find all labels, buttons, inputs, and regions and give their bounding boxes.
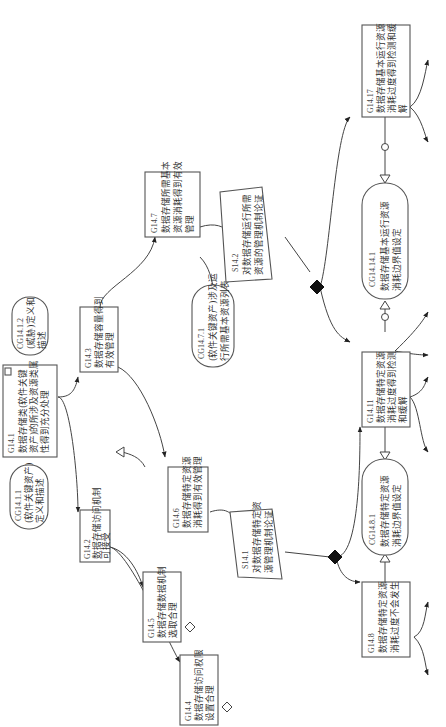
- context-cg14-1-2-node[interactable]: CG14.1.2 (威胁)定义和 描述: [12, 297, 48, 355]
- multiplicity-diamond-icon: [310, 280, 324, 294]
- goal-g14-17[interactable]: G14.17 数据存储基本运行资源 消耗过度得到检测和缓 解: [362, 23, 410, 117]
- goal-id: G14.5: [147, 618, 156, 638]
- strategy-text-line: 资源的管理机制论证: [253, 194, 264, 275]
- goal-id: G14.8: [367, 633, 376, 653]
- goal-id: G14.1: [7, 433, 16, 453]
- context-cg14-7-1[interactable]: CG14.7.1 (软件关键资产)涉及运 行所需基本资源列表: [192, 273, 234, 367]
- context-text-line: 数据存储基本运行资源: [379, 201, 390, 291]
- goal-g14-1[interactable]: G14.1 数据存储类(软件关键 资产)的所涉及资源类属 性得到充分处理: [3, 360, 57, 457]
- goal-g14-4[interactable]: G14.4 数据存储访问权限 设置合理: [180, 649, 218, 725]
- goal-id: G14.6: [172, 508, 181, 528]
- goal-text-line: 管理: [184, 215, 195, 233]
- goal-text-line: 性得到充分处理: [39, 390, 50, 453]
- multiplicity-diamond-icon: [328, 550, 342, 564]
- goal-text-line: 数据存储特定资源: [181, 456, 192, 528]
- undeveloped-icon: [185, 622, 195, 632]
- strategy-id: S14.2: [231, 254, 240, 272]
- goal-g14-5[interactable]: G14.5 数据存储数据机制 选取合理: [143, 566, 181, 642]
- goal-g14-2[interactable]: G14.2 数据存储访问机制 可接受: [80, 487, 111, 562]
- goal-text-line: 数据存储容量得到: [93, 296, 104, 368]
- edge-g14-14-to-g14-16: [395, 312, 428, 351]
- goal-text-line: 消耗过度不会发生: [389, 581, 400, 653]
- edge-g14-6-to-cg14-6-1: [122, 452, 145, 467]
- context-id: CG14.1.2: [16, 318, 25, 349]
- context-arrow-icon: [380, 175, 390, 183]
- goal-text-line: 数据存储特定资源: [375, 351, 386, 423]
- goal-g14-6[interactable]: G14.6 数据存储特定资源 消耗得到有效管理: [168, 456, 208, 532]
- goal-text-line: 有效管理: [104, 332, 115, 368]
- edge-g14-17-to-g14-19: [410, 60, 428, 107]
- goal-text-line: 数据存储所需基本: [160, 161, 171, 233]
- context-text-line: 消耗边界值设定: [391, 484, 402, 547]
- module-icon: [5, 368, 11, 375]
- context-id: CG14.8.1: [368, 514, 377, 545]
- goal-text-line: 解: [397, 104, 408, 113]
- optional-circle-icon: [382, 314, 389, 321]
- context-text-line: 描述: [36, 331, 47, 349]
- goal-text-line: 数据存储数据机制: [156, 566, 167, 638]
- edge-branch-to-g14-8: [336, 557, 360, 582]
- goal-id: G14.4: [184, 701, 193, 721]
- strategy-text-line: 对数据存储运行所需: [241, 194, 252, 275]
- goal-text-line: 消耗过度得到检测和缓: [386, 23, 397, 113]
- goal-id: G14.3: [84, 348, 93, 368]
- edge-branch-to-g14-11: [336, 427, 360, 557]
- context-cg14-14-1[interactable]: CG14.14.1 数据存储基本运行资源 消耗边界值设定: [362, 183, 408, 299]
- strategy-text-line: 对数据存储特定资: [251, 501, 262, 573]
- context-text-line: 数据存储特定资源: [379, 475, 390, 547]
- context-text-line: 行所需基本资源列表: [219, 280, 230, 361]
- goal-id: G14.11: [366, 400, 375, 423]
- strategy-text-line: 源管理机制论证: [263, 510, 274, 573]
- goal-g14-8[interactable]: G14.8 数据存储特定资源 消耗过度不会发生: [362, 581, 410, 657]
- edge-s14-2-to-branch: [285, 237, 310, 272]
- goal-text-line: 数据存储基本运行资源: [375, 23, 386, 113]
- strategy-s14-2[interactable]: S14.2 对数据存储运行所需 资源的管理机制论证: [220, 187, 272, 282]
- strategy-id: S14.1: [241, 551, 250, 569]
- goal-text-line: 资产)的所涉及资源类属: [28, 360, 39, 453]
- context-text-line: (软件关键资产): [23, 462, 34, 523]
- context-id: CG14.7.1: [197, 328, 206, 359]
- edge-g14-1-to-g14-3: [58, 377, 78, 397]
- goal-text-line: 可接受: [100, 532, 111, 559]
- context-arrow-icon: [116, 447, 124, 457]
- gsn-diagram: G14.1 数据存储类(软件关键 资产)的所涉及资源类属 性得到充分处理 CG1…: [0, 0, 446, 727]
- goal-text-line: 消耗过度得到检测: [386, 351, 397, 423]
- strategy-s14-1[interactable]: S14.1 对数据存储特定资 源管理机制论证: [230, 501, 282, 579]
- goal-g14-11[interactable]: G14.11 数据存储特定资源 消耗过度得到检测 和缓解: [362, 351, 410, 427]
- goal-text-line: 数据存储特定资源: [377, 581, 388, 653]
- optional-circle-icon: [382, 144, 389, 151]
- context-text-line: (威胁)定义和: [25, 297, 36, 349]
- goal-text-line: 设置合理: [204, 685, 215, 721]
- edge-g14-3-to-g14-7: [100, 237, 155, 307]
- edge-s14-1-to-branch: [285, 552, 330, 557]
- goal-id: G14.17: [366, 89, 375, 113]
- edge-branch-to-g14-14: [320, 287, 350, 342]
- context-text-line: (软件关键资产)涉及运: [207, 273, 218, 361]
- context-id: CG14.1.1: [14, 490, 23, 521]
- context-id: CG14.14.1: [368, 252, 377, 287]
- goal-text-line: 资源消耗得到有效: [172, 161, 183, 233]
- diagram-canvas: G14.1 数据存储类(软件关键 资产)的所涉及资源类属 性得到充分处理 CG1…: [0, 0, 446, 727]
- goal-text-line: 数据存储访问权限: [193, 649, 204, 721]
- edge-branch-to-g14-17: [320, 117, 350, 287]
- edge-g14-3-to-g14-6: [118, 367, 165, 457]
- goal-id: G14.7: [150, 213, 159, 233]
- goal-g14-7[interactable]: G14.7 数据存储所需基本 资源消耗得到有效 管理: [145, 161, 200, 237]
- context-text-line: 消耗边界值设定: [391, 228, 402, 291]
- edge-g14-8-to-g14-9: [414, 637, 428, 675]
- edge-g14-17-to-g14-18: [410, 107, 428, 142]
- goal-text-line: 选取合理: [167, 602, 178, 638]
- edge-g14-11-to-g14-12: [410, 397, 428, 452]
- edge-g14-8-to-g14-10: [414, 602, 428, 637]
- goal-id: G14.2: [83, 539, 92, 559]
- goal-text-line: 数据存储类(软件关键: [17, 369, 28, 453]
- context-cg14-8-1[interactable]: CG14.8.1 数据存储特定资源 消耗边界值设定: [362, 459, 408, 555]
- context-cg14-1-1[interactable]: CG14.1.1 (软件关键资产) 定义和描述: [10, 462, 48, 529]
- edge-g14-1-to-g14-2: [58, 397, 78, 512]
- context-text-line: 定义和描述: [34, 478, 45, 523]
- goal-g14-3[interactable]: G14.3 数据存储容量得到 有效管理: [80, 296, 118, 372]
- goal-text-line: 消耗得到有效管理: [192, 456, 203, 528]
- undeveloped-icon: [222, 702, 232, 712]
- goal-text-line: 和缓解: [397, 396, 408, 423]
- context-arrow-icon: [380, 301, 390, 309]
